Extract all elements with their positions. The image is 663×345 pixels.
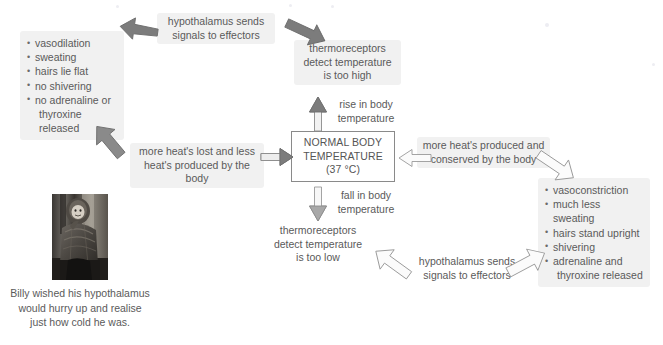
label-fall-in-body-temperature: fall in body temperature [329,187,403,218]
background-speck [116,5,119,8]
list-item: much less sweating [545,197,643,225]
node-more-heat-lost: more heat's lost and less heat's produce… [130,143,264,188]
arrow-hypothalamus-to-cooling-effectors [118,15,160,43]
photo-caption: Billy wished his hypothalamus would hurr… [4,286,156,330]
node-thermoreceptors-too-low: thermoreceptors detect temperature is to… [262,222,374,267]
arrow-hypothalamus-to-warming-effectors [503,246,549,280]
list-item: no shivering [27,79,117,93]
list-item: thyroxine released [545,268,643,282]
list-item: adrenaline and [545,254,643,268]
list-item: vasodilation [27,36,117,50]
node-more-heat-produced: more heat's produced and conserved by th… [417,137,550,168]
arrow-thermoreceptors-low-to-hypothalamus [369,243,415,283]
list-item: sweating [27,50,117,64]
arrow-fall-in-body-temperature [308,186,328,222]
center-box-line-2: TEMPERATURE [303,150,383,164]
arrow-heat-produced-to-normal [398,148,432,168]
warming-effectors-list: vasoconstriction much less sweating hair… [538,178,650,287]
warming-effectors-items: vasoconstriction much less sweating hair… [545,183,643,282]
central-normal-body-temperature-box: NORMAL BODY TEMPERATURE (37 °C) [291,131,395,182]
list-item: no adrenaline or [27,93,117,107]
list-item: hairs lie flat [27,64,117,78]
node-hypothalamus-sends-signals-top: hypothalamus sends signals to effectors [157,13,275,44]
photo-billy-cold [52,194,108,280]
label-rise-in-body-temperature: rise in body temperature [329,96,403,127]
arrow-heat-lost-to-normal [260,147,294,167]
background-speck [331,5,334,8]
list-item: shivering [545,240,643,254]
thermoregulation-diagram: hypothalamus sends signals to effectors … [0,0,663,345]
background-speck [545,23,549,27]
center-box-line-1: NORMAL BODY [304,136,382,150]
background-speck [652,63,655,66]
arrow-cooling-effectors-to-heat-lost [86,119,132,163]
arrow-thermoreceptors-to-hypothalamus [279,14,329,48]
center-box-line-3: (37 °C) [326,163,360,177]
list-item: hairs stand upright [545,226,643,240]
background-speck [289,4,292,7]
arrow-warming-effectors-to-heat-produced [532,146,580,186]
arrow-rise-in-body-temperature [308,96,328,132]
